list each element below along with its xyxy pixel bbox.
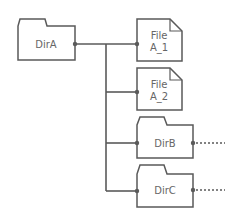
folder-dira-label: DirA [35,39,57,50]
file-a1-label-line2: A_1 [150,42,168,54]
tree-connectors [75,44,137,191]
folder-dirb-label: DirB [154,138,176,149]
directory-tree-diagram: DirA File A_1 File A_2 DirB DirC [0,0,241,219]
file-a2[interactable]: File A_2 [135,68,182,110]
folder-dirc[interactable]: DirC [135,165,225,207]
file-a2-label-line2: A_2 [150,91,168,103]
connector-dot [135,90,139,94]
connector-dot [135,42,139,46]
connector-dot [191,188,195,192]
folder-dirc-label: DirC [154,185,176,196]
file-a1-label-line1: File [151,30,168,41]
folder-dirb[interactable]: DirB [135,117,225,158]
connector-dot [135,141,139,145]
connector-dot [135,189,139,193]
file-a2-label-line1: File [151,79,168,90]
file-a1[interactable]: File A_1 [135,19,182,61]
connector-dot [73,42,77,46]
connector-dot [191,141,195,145]
folder-dira[interactable]: DirA [18,19,77,60]
